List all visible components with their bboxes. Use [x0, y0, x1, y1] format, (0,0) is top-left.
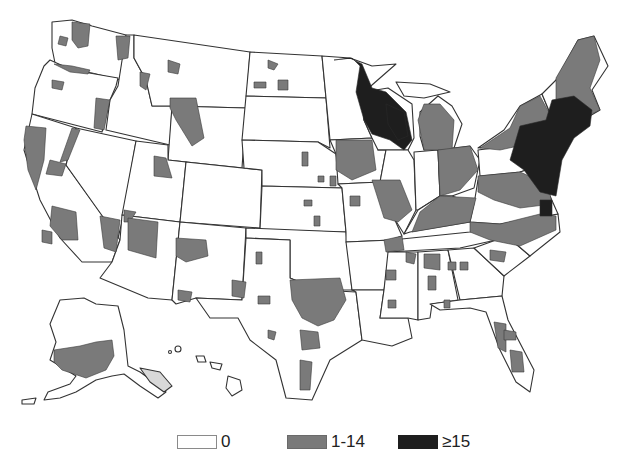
legend-swatch-high — [398, 435, 438, 449]
legend-swatch-zero — [177, 435, 217, 449]
aleutian-islands — [22, 398, 36, 404]
legend-swatch-low — [287, 435, 327, 449]
map-legend: 0 1-14 ≥15 — [0, 428, 632, 458]
legend-label-high: ≥15 — [442, 432, 470, 452]
legend-item-low: 1-14 — [287, 428, 365, 456]
legend-item-zero: 0 — [177, 428, 230, 456]
legend-item-high: ≥15 — [398, 428, 470, 456]
us-choropleth-map — [0, 0, 632, 420]
legend-label-zero: 0 — [221, 432, 230, 452]
legend-label-low: 1-14 — [331, 432, 365, 452]
hawaii-islands — [169, 346, 243, 396]
